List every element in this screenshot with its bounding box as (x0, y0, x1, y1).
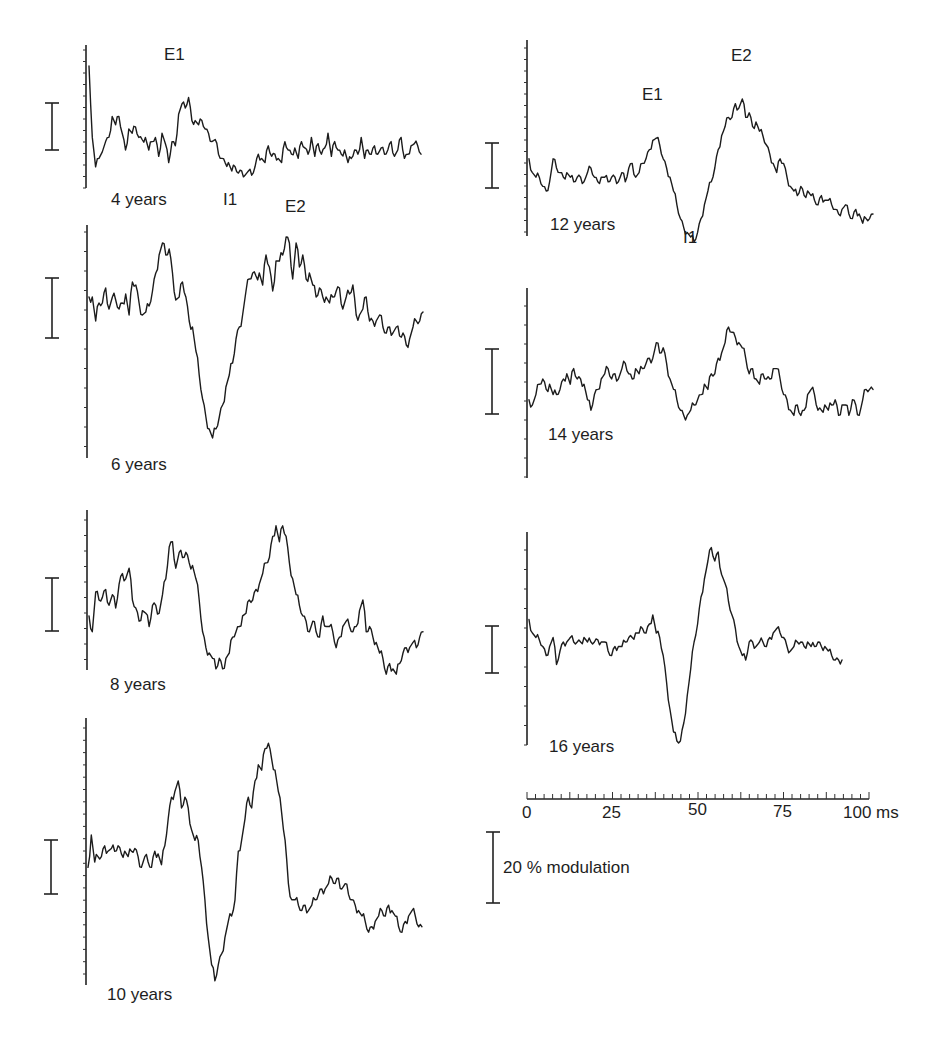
peak-label-e2: E2 (285, 197, 306, 216)
waveform-trace (89, 66, 421, 177)
waveform-trace (89, 237, 423, 438)
scale-bar-icon (485, 626, 499, 673)
scale-bar-icon (44, 840, 58, 894)
scale-bar-icon (45, 578, 59, 631)
time-axis-ticks (527, 792, 869, 799)
y-axis-ticks (83, 728, 86, 974)
peak-label-e1: E1 (164, 45, 185, 64)
time-axis: 0 25 50 75 100 ms (522, 792, 899, 822)
peak-label-e2: E2 (731, 46, 752, 65)
scale-bar-icon (485, 143, 499, 188)
scale-bar-icon (45, 103, 59, 150)
time-tick-75: 75 (773, 802, 792, 821)
panel-label: 4 years (111, 190, 167, 209)
peak-label-e1: E1 (642, 85, 663, 104)
time-tick-25: 25 (602, 803, 621, 822)
panel-4-years: E1 4 years I1 E2 (45, 45, 421, 216)
time-tick-50: 50 (688, 800, 707, 819)
panel-label: 12 years (550, 215, 615, 234)
panel-10-years: 10 years (44, 718, 422, 1004)
panel-label: 8 years (110, 675, 166, 694)
panel-label: 10 years (107, 985, 172, 1004)
panel-label: 16 years (549, 737, 614, 756)
panel-6-years: 6 years (45, 225, 423, 474)
scale-bar-icon (485, 349, 499, 414)
time-tick-0: 0 (522, 803, 531, 822)
scale-bar-icon (486, 832, 500, 903)
waveform-trace (529, 548, 842, 744)
waveform-trace (88, 743, 422, 981)
figure-canvas: E1 4 years I1 E2 6 years 8 years (0, 0, 952, 1040)
amplitude-scale-label: 20 % modulation (503, 858, 630, 877)
peak-label-i1: I1 (223, 190, 237, 209)
panel-12-years: E1 E2 12 years I1 (485, 40, 873, 247)
waveform-trace (89, 526, 423, 674)
peak-label-i1: I1 (683, 228, 697, 247)
amplitude-scale-legend: 20 % modulation (486, 832, 630, 903)
panel-8-years: 8 years (45, 510, 423, 694)
panel-label: 14 years (548, 425, 613, 444)
panel-label: 6 years (111, 455, 167, 474)
panel-16-years: 16 years (485, 532, 842, 756)
time-tick-100: 100 ms (843, 803, 899, 822)
scale-bar-icon (45, 278, 59, 338)
panel-14-years: 14 years (485, 288, 873, 478)
waveform-trace (529, 327, 873, 420)
